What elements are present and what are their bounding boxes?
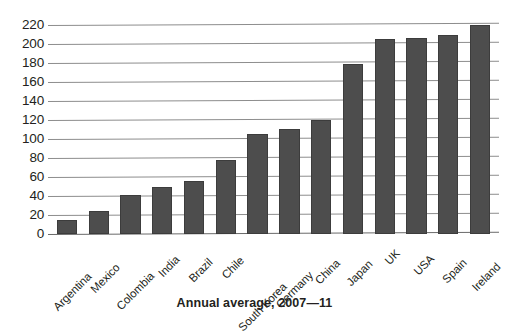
bar-slot xyxy=(210,25,242,234)
y-tick-label: 160 xyxy=(0,75,44,89)
bar xyxy=(120,195,140,234)
bar-slot xyxy=(51,25,83,234)
x-tick-label: China xyxy=(313,257,342,286)
x-tick-label: India xyxy=(156,253,182,279)
bar xyxy=(184,181,204,234)
bar xyxy=(438,35,458,235)
x-tick-label: UK xyxy=(382,247,402,267)
x-tick-label: Spain xyxy=(440,256,469,285)
y-tick-label: 0 xyxy=(0,227,44,241)
bar xyxy=(57,220,77,234)
bar-slot xyxy=(464,25,496,234)
bar xyxy=(311,120,331,234)
x-tick-label: USA xyxy=(411,253,436,278)
bar-slot xyxy=(178,25,210,234)
bar-slot xyxy=(115,25,147,234)
chart-caption: Annual average, 2007—11 xyxy=(0,296,509,310)
x-tick-label: Ireland xyxy=(470,260,503,293)
y-tick-label: 120 xyxy=(0,113,44,127)
y-tick-label: 140 xyxy=(0,94,44,108)
y-tick-label: 40 xyxy=(0,189,44,203)
bar-series xyxy=(48,25,499,234)
bar xyxy=(343,64,363,234)
bar-slot xyxy=(369,25,401,234)
y-tick-label: 180 xyxy=(0,56,44,70)
bar xyxy=(279,129,299,234)
bar-slot xyxy=(242,25,274,234)
bar-slot xyxy=(401,25,433,234)
bar-slot xyxy=(273,25,305,234)
x-tick-label: Chile xyxy=(219,254,246,281)
plot-area xyxy=(48,25,499,234)
bar xyxy=(216,160,236,234)
y-tick-label: 20 xyxy=(0,208,44,222)
y-tick-label: 100 xyxy=(0,132,44,146)
bar-slot xyxy=(337,25,369,234)
x-tick-label: Japan xyxy=(344,258,374,288)
y-tick-label: 220 xyxy=(0,18,44,32)
bar xyxy=(375,39,395,234)
x-tick-label: Brazil xyxy=(186,256,214,284)
y-axis: 220200180160140120100806040200 xyxy=(0,25,44,241)
y-tick-label: 200 xyxy=(0,37,44,51)
bar-slot xyxy=(83,25,115,234)
bar xyxy=(247,134,267,234)
bar xyxy=(89,211,109,234)
bar-slot xyxy=(146,25,178,234)
bar xyxy=(406,38,426,234)
bar xyxy=(470,25,490,234)
bar-slot xyxy=(305,25,337,234)
x-axis: ArgentinaMexicoColombiaIndiaBrazilChileS… xyxy=(48,236,499,294)
y-tick-label: 60 xyxy=(0,170,44,184)
bar-slot xyxy=(432,25,464,234)
bar xyxy=(152,187,172,235)
y-tick-label: 80 xyxy=(0,151,44,165)
